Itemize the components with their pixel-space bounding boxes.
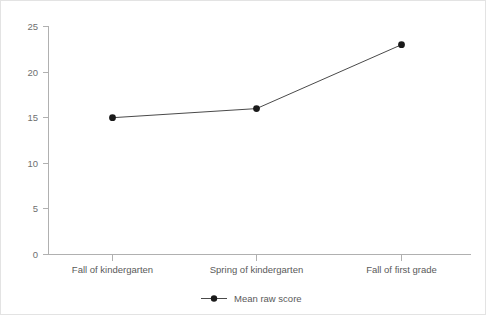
series-mean-raw-score [109, 41, 405, 121]
x-tick-label: Fall of first grade [366, 264, 437, 275]
y-tick-label: 5 [33, 203, 38, 214]
data-point-marker [253, 105, 260, 112]
data-point-marker [398, 41, 405, 48]
y-axis-ticks: 25 20 15 10 5 0 [27, 21, 48, 260]
legend-marker-icon [211, 295, 217, 301]
y-tick-label: 15 [27, 112, 38, 123]
chart-figure: 25 20 15 10 5 0 Fall of kindergarten Spr… [0, 0, 486, 315]
legend-item-label: Mean raw score [234, 293, 302, 304]
y-tick-label: 10 [27, 158, 38, 169]
y-tick-label: 25 [27, 21, 38, 32]
chart-legend: Mean raw score [201, 293, 302, 304]
y-tick-label: 0 [33, 249, 38, 260]
line-chart: 25 20 15 10 5 0 Fall of kindergarten Spr… [1, 1, 486, 315]
x-axis-ticks: Fall of kindergarten Spring of kindergar… [72, 255, 437, 276]
x-tick-label: Spring of kindergarten [210, 264, 303, 275]
x-tick-label: Fall of kindergarten [72, 264, 153, 275]
y-tick-label: 20 [27, 67, 38, 78]
data-point-marker [109, 114, 116, 121]
